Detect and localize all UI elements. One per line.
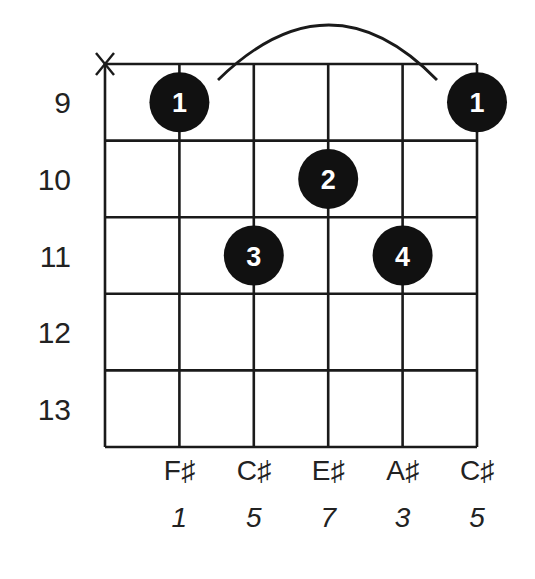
fret-number: 11 (40, 240, 71, 273)
finger-dot: 2 (298, 149, 358, 209)
fret-number: 13 (38, 393, 71, 426)
fret-number: 12 (38, 316, 71, 349)
interval-degree: 5 (246, 502, 262, 533)
fret-number-labels: 910111213 (38, 86, 71, 425)
note-name: C♯ (237, 455, 271, 486)
interval-degree: 3 (395, 502, 411, 533)
interval-degree: 1 (172, 502, 188, 533)
finger-dot: 3 (224, 226, 284, 286)
fret-number: 10 (38, 163, 71, 196)
finger-number: 1 (469, 88, 484, 118)
finger-dot: 4 (373, 226, 433, 286)
interval-degree-labels: 15735 (172, 502, 486, 533)
finger-number: 2 (321, 165, 336, 195)
note-name: C♯ (460, 455, 494, 486)
finger-number: 3 (246, 242, 261, 272)
finger-dot: 1 (447, 72, 507, 132)
note-name: A♯ (386, 455, 419, 486)
fret-number: 9 (54, 86, 71, 119)
note-name: E♯ (312, 455, 345, 486)
interval-degree: 5 (469, 502, 485, 533)
finger-number: 1 (172, 88, 187, 118)
note-name-labels: F♯C♯E♯A♯C♯ (164, 455, 494, 486)
chord-diagram: 910111213 11234 F♯C♯E♯A♯C♯ 15735 (0, 0, 535, 579)
finger-dot: 1 (149, 72, 209, 132)
interval-degree: 7 (320, 502, 337, 533)
note-name: F♯ (164, 455, 195, 486)
finger-number: 4 (395, 242, 410, 272)
